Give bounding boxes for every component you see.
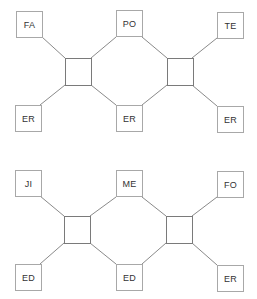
link-po-hub2 xyxy=(142,37,167,58)
link-er-right-hub4 xyxy=(192,243,217,265)
node-top-diagram-bottom-right: ER xyxy=(217,106,244,133)
link-po-hub1 xyxy=(91,37,116,58)
link-ed-left-hub3 xyxy=(40,243,64,264)
node-bottom-diagram-top-middle: ME xyxy=(116,170,143,197)
node-top-diagram-bottom-middle: ER xyxy=(116,105,143,132)
node-bottom-diagram-top-right: FO xyxy=(217,171,244,198)
hub-bottom-right xyxy=(166,216,193,244)
link-te-hub2 xyxy=(192,38,217,58)
node-bottom-diagram-bottom-middle: ED xyxy=(116,264,143,291)
hub-top-left xyxy=(65,58,92,86)
hub-bottom-left xyxy=(64,216,91,244)
hub-top-right xyxy=(167,58,194,86)
link-er-left-hub1 xyxy=(40,85,65,105)
link-me-hub3 xyxy=(90,197,116,216)
node-bottom-diagram-bottom-right: ER xyxy=(217,265,244,292)
node-top-diagram-bottom-left: ER xyxy=(15,105,42,132)
node-bottom-diagram-top-left: JI xyxy=(15,170,42,197)
link-me-hub4 xyxy=(142,197,166,216)
link-fo-hub4 xyxy=(192,197,217,216)
node-bottom-diagram-bottom-left: ED xyxy=(15,264,42,291)
link-fa-hub1 xyxy=(42,37,65,58)
node-top-diagram-top-right: TE xyxy=(217,12,244,39)
link-ed-mid-hub3 xyxy=(90,243,116,264)
connector-lines xyxy=(0,0,257,299)
node-top-diagram-top-middle: PO xyxy=(116,10,143,37)
link-er-mid-hub1 xyxy=(91,85,116,105)
node-top-diagram-top-left: FA xyxy=(16,11,43,38)
link-ed-mid-hub4 xyxy=(142,243,166,264)
link-er-right-hub2 xyxy=(192,85,217,106)
diagram-canvas: FA PO TE ER ER ER JI ME FO ED ED ER xyxy=(0,0,257,299)
link-er-mid-hub2 xyxy=(142,85,167,105)
link-ji-hub3 xyxy=(40,196,64,216)
